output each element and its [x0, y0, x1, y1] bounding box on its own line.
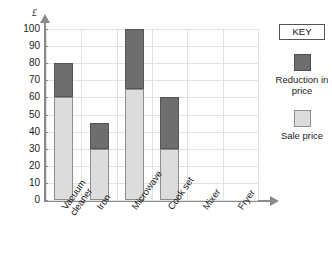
y-tick-mark — [44, 183, 48, 184]
y-tick-label: 60 — [12, 92, 40, 102]
y-tick-label: 40 — [12, 127, 40, 137]
legend: KEY Reduction in price Sale price — [272, 24, 332, 141]
bar-segment-reduction-in-price — [125, 29, 144, 89]
bar-segment-sale-price — [54, 97, 73, 200]
y-tick-label: 0 — [12, 195, 40, 205]
y-tick-mark — [44, 63, 48, 64]
y-tick-label: 90 — [12, 41, 40, 51]
y-tick-mark — [44, 29, 48, 30]
bar-segment-reduction-in-price — [90, 123, 109, 149]
y-tick-mark — [44, 132, 48, 133]
y-tick-label: 100 — [12, 24, 40, 34]
bar-microwave — [125, 29, 144, 200]
y-tick-label: 10 — [12, 178, 40, 188]
bar-iron — [90, 29, 109, 200]
legend-entry-reduction: Reduction in price — [272, 54, 332, 96]
legend-swatch-reduction — [294, 54, 311, 71]
gridline-vertical — [223, 29, 224, 200]
y-axis-ticks: 0102030405060708090100 — [6, 0, 40, 275]
y-tick-label: 70 — [12, 75, 40, 85]
bar-segment-reduction-in-price — [54, 63, 73, 97]
bar-vacuum-cleaner — [54, 29, 73, 200]
y-tick-label: 80 — [12, 58, 40, 68]
bar-segment-sale-price — [125, 89, 144, 200]
legend-label-sale-line2: price — [303, 130, 324, 141]
y-tick-label: 50 — [12, 110, 40, 120]
y-tick-mark — [44, 200, 48, 201]
gridline-vertical — [117, 29, 118, 200]
legend-swatch-sale — [294, 110, 311, 127]
legend-entry-sale: Sale price — [272, 110, 332, 141]
legend-label-reduction: Reduction in price — [272, 74, 332, 96]
gridline-vertical — [258, 29, 259, 200]
legend-label-sale-line1: Sale — [281, 130, 300, 141]
y-tick-mark — [44, 115, 48, 116]
y-tick-mark — [44, 97, 48, 98]
y-tick-mark — [44, 46, 48, 47]
x-axis-arrow-icon — [270, 196, 279, 206]
bar-chart: £ 0102030405060708090100 VacuumcleanerIr… — [0, 0, 332, 275]
y-tick-label: 30 — [12, 144, 40, 154]
gridline-vertical — [81, 29, 82, 200]
y-axis-arrow-icon — [40, 14, 50, 23]
y-tick-label: 20 — [12, 161, 40, 171]
legend-title: KEY — [279, 24, 325, 40]
legend-label-sale: Sale price — [272, 130, 332, 141]
y-tick-mark — [44, 80, 48, 81]
bar-segment-reduction-in-price — [160, 97, 179, 148]
legend-label-reduction-line1: Reduction — [276, 74, 319, 85]
y-tick-mark — [44, 166, 48, 167]
y-tick-mark — [44, 149, 48, 150]
